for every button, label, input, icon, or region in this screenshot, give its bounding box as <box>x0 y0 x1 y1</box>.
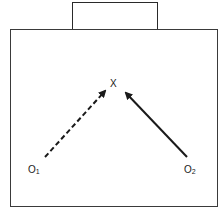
arrows-layer <box>0 0 223 213</box>
observer-o1-label: O1 <box>28 165 40 175</box>
observer-o2-subscript: 2 <box>192 168 196 175</box>
observer-o1-letter: O <box>28 164 36 175</box>
solid-arrow-o2-to-x <box>126 93 187 157</box>
dashed-arrow-o1-to-x <box>45 91 105 157</box>
diagram: X O1 O2 <box>0 0 223 213</box>
observer-o2-letter: O <box>184 164 192 175</box>
observer-o2-label: O2 <box>184 165 196 175</box>
target-x-label: X <box>110 78 117 89</box>
observer-o1-subscript: 1 <box>36 168 40 175</box>
